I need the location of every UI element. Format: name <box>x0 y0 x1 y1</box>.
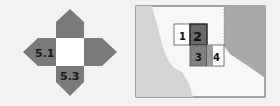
grid-label-2: 2 <box>193 29 202 44</box>
map-graphic: 1 2 3 4 <box>130 0 280 106</box>
directional-tile-diagram: 5.1 5.3 <box>0 0 130 106</box>
region-map: 1 2 3 4 <box>130 0 280 106</box>
top-arrow-arm <box>56 9 84 38</box>
grid-label-1: 1 <box>179 31 186 42</box>
right-arrow-arm <box>84 38 117 66</box>
grid-label-3: 3 <box>195 52 202 63</box>
left-label: 5.1 <box>35 47 55 60</box>
center-square <box>56 38 84 66</box>
grid-label-4: 4 <box>213 52 220 63</box>
bottom-label: 5.3 <box>60 70 80 83</box>
cross-arrows-graphic: 5.1 5.3 <box>0 0 130 106</box>
